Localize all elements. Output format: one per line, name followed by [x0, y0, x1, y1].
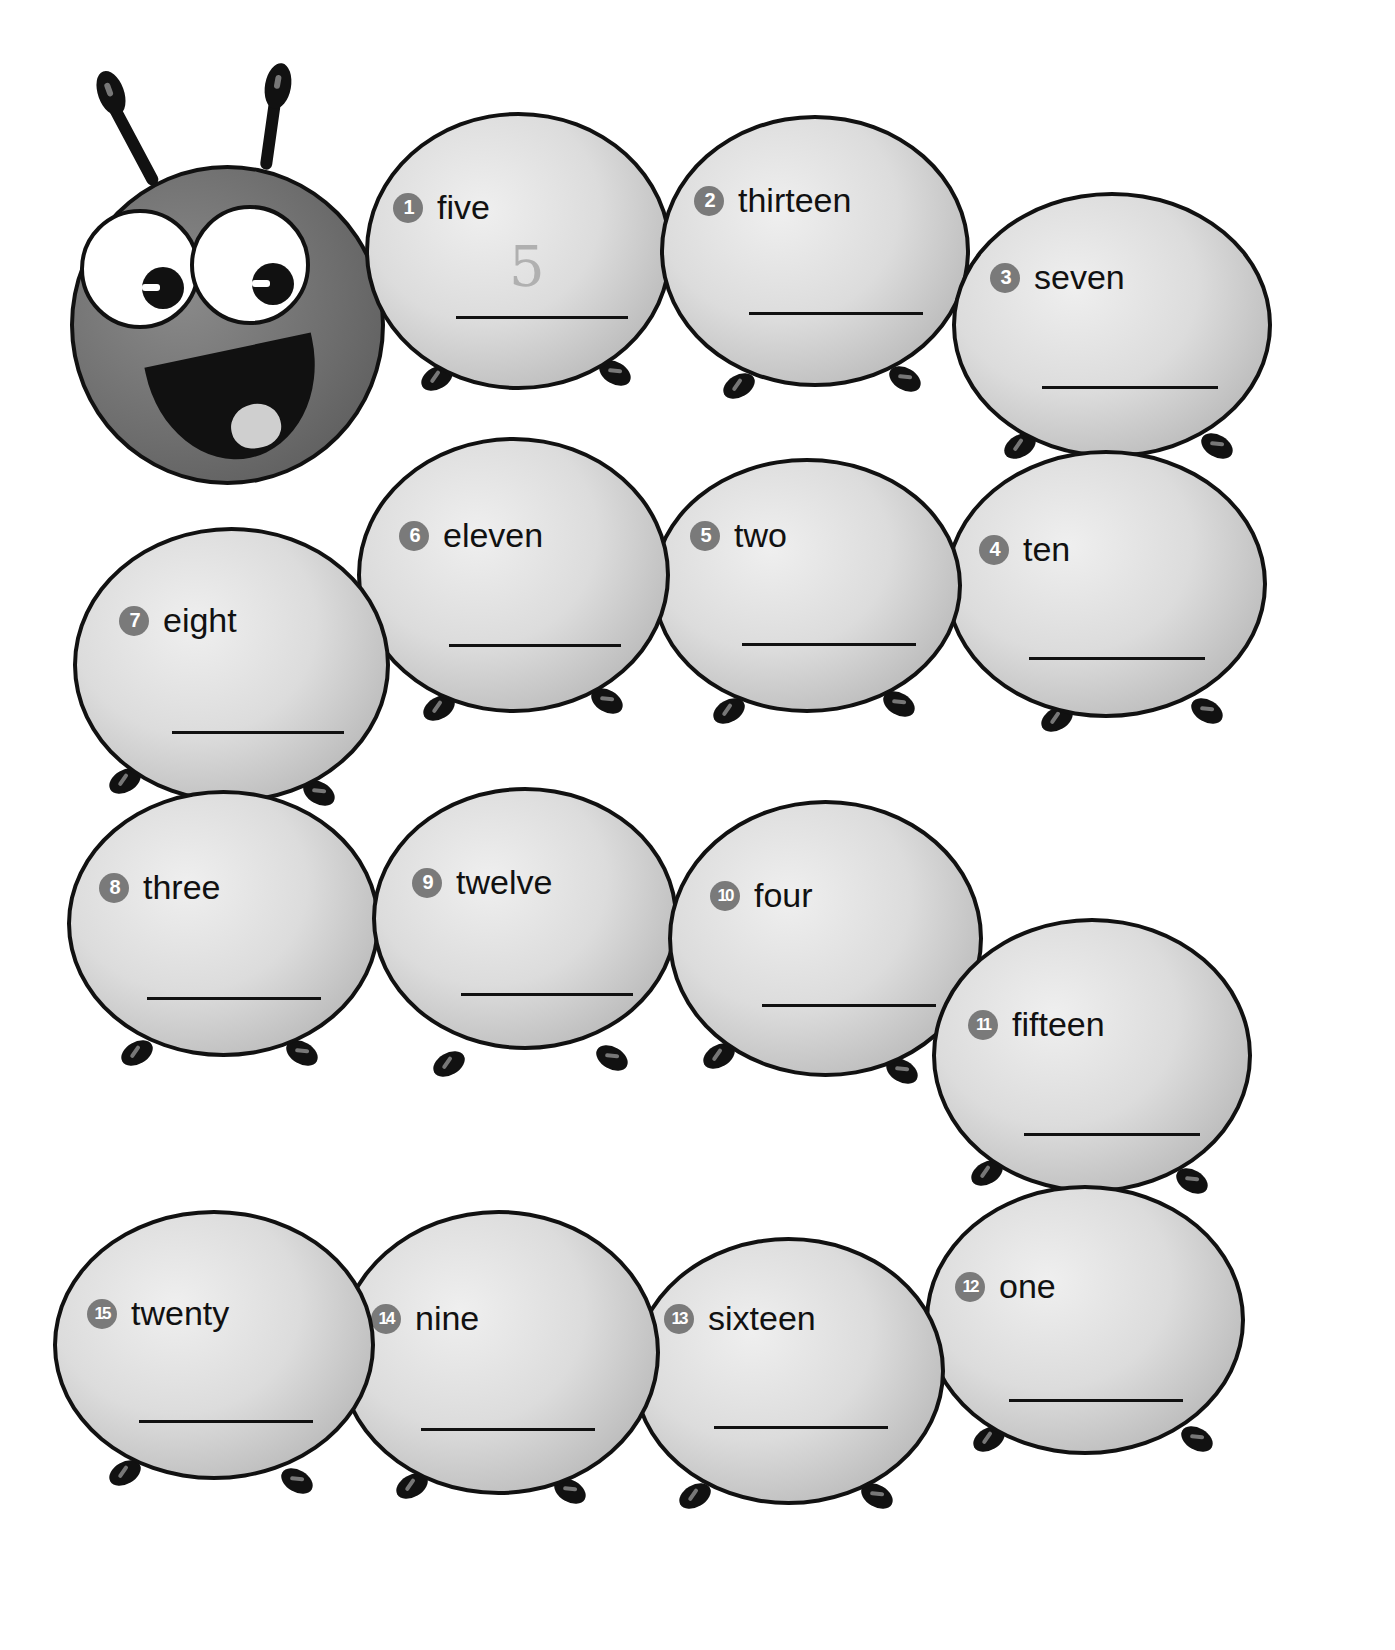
answer-blank[interactable]	[461, 993, 633, 996]
segment-12: 12 one	[925, 1185, 1245, 1455]
answer-blank[interactable]	[749, 312, 923, 315]
number-badge: 9	[412, 868, 442, 898]
tongue-icon	[227, 399, 285, 452]
leg-icon	[277, 1463, 317, 1499]
antenna-tip-icon	[91, 67, 131, 119]
pupil-icon	[142, 267, 184, 309]
answer-blank[interactable]	[139, 1420, 313, 1423]
segment-5: 5 two	[652, 458, 962, 713]
segment-label: 9 twelve	[412, 863, 552, 902]
number-badge: 11	[968, 1010, 998, 1040]
number-badge: 15	[87, 1299, 117, 1329]
segment-2: 2 thirteen	[660, 115, 970, 387]
answer-blank[interactable]	[421, 1428, 595, 1431]
number-badge: 2	[694, 186, 724, 216]
segment-9: 9 twelve	[372, 787, 678, 1050]
number-word: ten	[1023, 530, 1070, 569]
mouth-icon	[144, 333, 333, 476]
segment-label: 5 two	[690, 516, 787, 555]
segment-label: 8 three	[99, 868, 221, 907]
answer-blank[interactable]	[762, 1004, 936, 1007]
answer-blank[interactable]	[1009, 1399, 1183, 1402]
segment-label: 3 seven	[990, 258, 1125, 297]
answer-blank[interactable]	[714, 1426, 888, 1429]
leg-icon	[592, 1040, 632, 1076]
answer-blank[interactable]	[172, 731, 344, 734]
number-word: fifteen	[1012, 1005, 1105, 1044]
number-word: twenty	[131, 1294, 229, 1333]
number-badge: 13	[664, 1304, 694, 1334]
pupil-icon	[252, 263, 294, 305]
segment-label: 10 four	[710, 876, 813, 915]
answer-blank[interactable]	[1029, 657, 1205, 660]
segment-11: 11 fifteen	[932, 918, 1252, 1193]
segment-13: 13 sixteen	[632, 1237, 945, 1505]
number-badge: 1	[393, 193, 423, 223]
leg-icon	[429, 1046, 469, 1082]
segment-label: 1 five	[393, 188, 490, 227]
answer-blank[interactable]	[449, 644, 621, 647]
segment-3: 3 seven	[952, 192, 1272, 458]
number-word: nine	[415, 1299, 479, 1338]
number-badge: 7	[119, 606, 149, 636]
number-word: one	[999, 1267, 1056, 1306]
segment-label: 6 eleven	[399, 516, 543, 555]
right-eye-icon	[190, 205, 310, 325]
number-word: eight	[163, 601, 237, 640]
answer-blank[interactable]	[147, 997, 321, 1000]
leg-icon	[1187, 693, 1227, 729]
segment-label: 12 one	[955, 1267, 1056, 1306]
number-word: three	[143, 868, 221, 907]
number-word: thirteen	[738, 181, 851, 220]
number-word: twelve	[456, 863, 552, 902]
segment-15: 15 twenty	[53, 1210, 375, 1480]
answer-blank[interactable]	[1042, 386, 1218, 389]
answer-blank[interactable]	[742, 643, 916, 646]
segment-7: 7 eight	[73, 527, 390, 803]
number-badge: 14	[371, 1304, 401, 1334]
number-word: eleven	[443, 516, 543, 555]
left-eye-icon	[80, 209, 200, 329]
segment-label: 11 fifteen	[968, 1005, 1105, 1044]
segment-label: 4 ten	[979, 530, 1070, 569]
number-word: two	[734, 516, 787, 555]
answer-blank[interactable]	[456, 316, 628, 319]
number-word: four	[754, 876, 813, 915]
segment-6: 6 eleven	[357, 437, 670, 713]
caterpillar-head	[70, 165, 385, 485]
segment-label: 15 twenty	[87, 1294, 229, 1333]
number-badge: 10	[710, 881, 740, 911]
number-badge: 4	[979, 535, 1009, 565]
number-badge: 12	[955, 1272, 985, 1302]
segment-label: 13 sixteen	[664, 1299, 816, 1338]
answer-blank[interactable]	[1024, 1133, 1200, 1136]
segment-label: 7 eight	[119, 601, 237, 640]
antenna-tip-icon	[261, 61, 295, 111]
number-badge: 6	[399, 521, 429, 551]
segment-label: 14 nine	[371, 1299, 479, 1338]
segment-4: 4 ten	[945, 450, 1267, 718]
number-word: sixteen	[708, 1299, 816, 1338]
worksheet-page: 1 five 5 2 thirteen 3 seven 4 ten 5 two	[0, 0, 1395, 1650]
number-badge: 5	[690, 521, 720, 551]
number-word: five	[437, 188, 490, 227]
segment-1: 1 five 5	[365, 112, 672, 390]
handwritten-answer: 5	[509, 234, 545, 299]
segment-14: 14 nine	[337, 1210, 660, 1495]
segment-label: 2 thirteen	[694, 181, 851, 220]
number-badge: 3	[990, 263, 1020, 293]
number-badge: 8	[99, 873, 129, 903]
segment-8: 8 three	[67, 790, 380, 1057]
number-word: seven	[1034, 258, 1125, 297]
